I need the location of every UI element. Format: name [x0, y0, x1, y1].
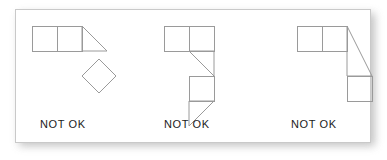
figure-3 — [289, 18, 387, 118]
figure-1-square-left — [32, 26, 57, 51]
figure-1 — [24, 18, 134, 118]
labels-row: NOT OK NOT OK NOT OK — [16, 118, 370, 144]
figure-3-square-right — [322, 26, 347, 51]
figure-3-square-left — [297, 26, 322, 51]
figure-2 — [156, 18, 266, 133]
figure-2-square-right — [189, 26, 214, 51]
figure-2-triangle-upper — [189, 51, 214, 76]
figure-3-square-bottom — [347, 76, 372, 101]
figure-1-square-right — [57, 26, 82, 51]
figure-1-triangle — [82, 26, 107, 51]
figure-3-triangle-tall — [347, 26, 372, 76]
figure-3-label: NOT OK — [291, 118, 337, 130]
examples-card: NOT OK NOT OK NOT OK — [15, 9, 371, 143]
figure-2-square-middle — [189, 76, 214, 101]
figure-2-label: NOT OK — [164, 118, 210, 130]
figure-1-label: NOT OK — [40, 118, 86, 130]
screenshot-root: NOT OK NOT OK NOT OK — [0, 0, 387, 160]
figure-2-square-left — [164, 26, 189, 51]
figure-1-diamond — [82, 59, 116, 93]
